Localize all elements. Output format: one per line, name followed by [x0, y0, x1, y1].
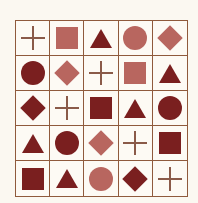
grid-cell	[50, 126, 84, 161]
plus-icon	[21, 26, 45, 50]
triangle-icon	[22, 134, 44, 153]
plus-icon	[89, 61, 113, 85]
square-icon	[124, 62, 146, 84]
plus-icon	[55, 96, 79, 120]
square-icon	[159, 132, 181, 154]
diamond-icon	[122, 166, 147, 191]
grid-cell	[50, 91, 84, 126]
grid-cell	[153, 126, 187, 161]
circle-icon	[21, 61, 45, 85]
plus-icon	[123, 131, 147, 155]
circle-icon	[55, 131, 79, 155]
triangle-icon	[159, 64, 181, 83]
grid-cell	[16, 21, 50, 56]
grid-cell	[16, 56, 50, 91]
grid-cell	[84, 21, 118, 56]
grid-cell	[119, 56, 153, 91]
diamond-icon	[157, 25, 182, 50]
triangle-icon	[90, 29, 112, 48]
grid-cell	[50, 21, 84, 56]
diamond-icon	[88, 130, 113, 155]
grid-cell	[119, 126, 153, 161]
square-icon	[56, 27, 78, 49]
triangle-icon	[56, 169, 78, 188]
square-icon	[90, 97, 112, 119]
shape-grid	[15, 20, 188, 197]
grid-cell	[153, 56, 187, 91]
circle-icon	[123, 26, 147, 50]
grid-cell	[119, 21, 153, 56]
grid-cell	[16, 91, 50, 126]
grid-cell	[153, 91, 187, 126]
grid-cell	[153, 21, 187, 56]
circle-icon	[89, 167, 113, 191]
grid-cell	[119, 161, 153, 196]
grid-cell	[16, 126, 50, 161]
triangle-icon	[124, 99, 146, 118]
grid-cell	[84, 126, 118, 161]
grid-cell	[84, 161, 118, 196]
plus-icon	[158, 167, 182, 191]
grid-cell	[84, 56, 118, 91]
grid-cell	[50, 161, 84, 196]
grid-cell	[16, 161, 50, 196]
grid-cell	[50, 56, 84, 91]
square-icon	[22, 168, 44, 190]
diamond-icon	[54, 60, 79, 85]
circle-icon	[158, 96, 182, 120]
grid-cell	[119, 91, 153, 126]
grid-cell	[84, 91, 118, 126]
diamond-icon	[20, 95, 45, 120]
grid-cell	[153, 161, 187, 196]
